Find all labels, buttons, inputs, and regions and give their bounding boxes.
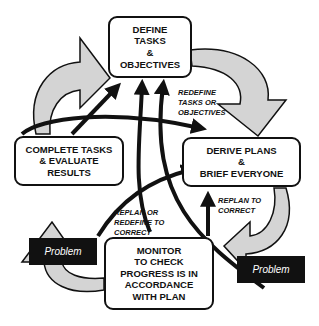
replan-or-redefine-label: REPLAN OR REDEFINE TO CORRECT bbox=[114, 208, 164, 237]
complete-tasks-box: COMPLETE TASKS & EVALUATE RESULTS bbox=[14, 136, 124, 186]
problem-left: Problem bbox=[29, 238, 97, 265]
define-tasks-box: DEFINE TASKS & OBJECTIVES bbox=[108, 16, 192, 78]
replan-label: REPLAN TO CORRECT bbox=[218, 196, 261, 216]
problem-right: Problem bbox=[237, 256, 305, 283]
derive-plans-box: DERIVE PLANS & BRIEF EVERYONE bbox=[182, 137, 301, 187]
redefine-label: REDEFINE TASKS OR OBJECTIVES bbox=[178, 88, 226, 117]
monitor-box: MONITOR TO CHECK PROGRESS IS IN ACCORDAN… bbox=[104, 237, 214, 310]
